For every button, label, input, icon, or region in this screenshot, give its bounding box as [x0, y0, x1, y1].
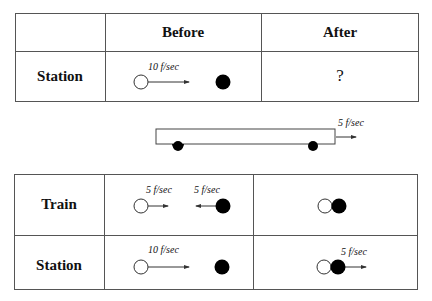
- train-after-scene: [318, 199, 347, 214]
- wheel-icon: [308, 141, 318, 151]
- top-before-scene: [134, 75, 231, 90]
- train-car: [156, 129, 356, 151]
- diagram-graphics: [0, 0, 432, 301]
- station-after-scene: [317, 260, 366, 275]
- filled-ball: [216, 75, 231, 90]
- station-before-scene: [134, 260, 230, 275]
- train-before-scene: [134, 199, 231, 214]
- wheel-icon: [173, 141, 183, 151]
- hollow-ball: [134, 75, 148, 89]
